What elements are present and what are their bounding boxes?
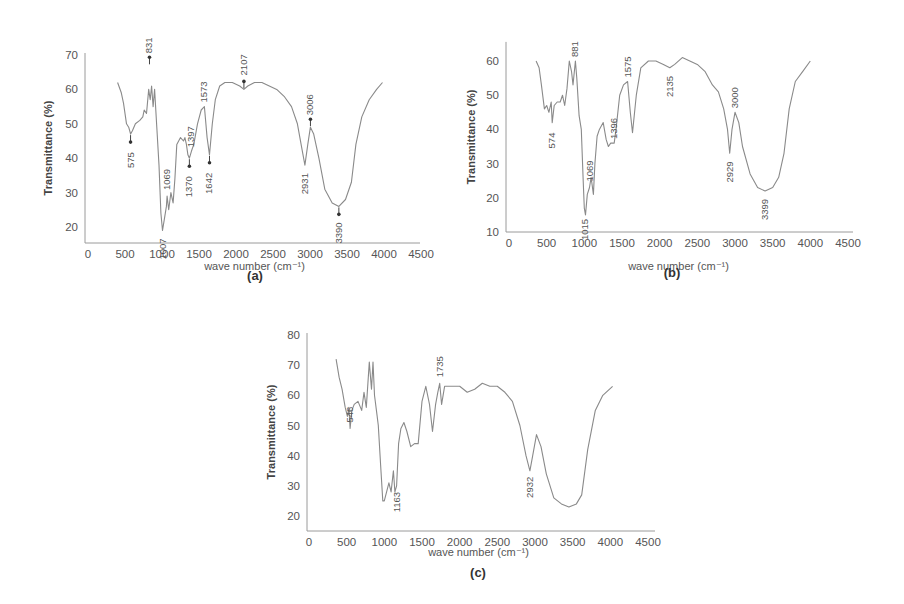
chart-panel-c: 2030405060708005001000150020002500300035… [265, 329, 661, 558]
peak-label: 1007 [157, 238, 168, 259]
x-tick-label: 3000 [722, 237, 748, 249]
x-tick-label: 4500 [835, 237, 861, 249]
ftir-figure: 2030405060700500100015002000250030003500… [0, 0, 904, 604]
chart-panel-a: 2030405060700500100015002000250030003500… [42, 37, 434, 272]
x-tick-label: 0 [85, 248, 91, 260]
x-tick-label: 4000 [598, 536, 624, 548]
peak-label: 1396 [608, 118, 619, 139]
x-tick-label: 500 [337, 536, 356, 548]
arrow-head-icon [188, 164, 192, 168]
x-tick-label: 3000 [297, 248, 323, 260]
x-tick-label: 3500 [334, 248, 360, 260]
y-tick-label: 30 [65, 187, 78, 199]
x-tick-label: 500 [537, 237, 556, 249]
chart-panel-b: 1020304050600500100015002000250030003500… [465, 41, 861, 272]
y-tick-label: 40 [486, 123, 499, 135]
peak-label: 1735 [434, 356, 445, 377]
peak-label: 1642 [204, 173, 215, 194]
x-tick-label: 500 [115, 248, 134, 260]
peak-label: 2135 [664, 76, 675, 97]
y-tick-label: 30 [287, 480, 300, 492]
y-axis-title: Transmittance (%) [465, 89, 477, 184]
y-tick-label: 20 [65, 221, 78, 233]
peak-label: 1069 [584, 160, 595, 181]
peak-label: 1015 [579, 219, 590, 240]
y-tick-label: 20 [486, 192, 499, 204]
panel-label-b: (b) [664, 265, 681, 280]
x-tick-label: 0 [306, 536, 312, 548]
peak-label: 1370 [183, 176, 194, 197]
x-tick-label: 2500 [685, 237, 711, 249]
y-tick-label: 30 [486, 158, 499, 170]
arrow-head-icon [309, 117, 313, 121]
arrow-head-icon [208, 161, 212, 165]
peak-label: 881 [569, 41, 580, 57]
peak-label: 1163 [391, 492, 402, 512]
x-tick-label: 1500 [609, 237, 635, 249]
y-tick-label: 50 [287, 420, 300, 432]
peak-label: 1397 [185, 126, 196, 147]
y-axis-title: Transmittance (%) [42, 100, 54, 195]
x-tick-label: 3500 [760, 237, 786, 249]
x-tick-label: 2500 [260, 248, 286, 260]
spectrum-curve [118, 83, 383, 231]
x-tick-label: 4000 [798, 237, 824, 249]
panel-label-a: (a) [247, 268, 263, 283]
peak-label: 3390 [333, 222, 344, 243]
peak-label: 3000 [729, 87, 740, 108]
x-tick-label: 4500 [635, 536, 661, 548]
x-tick-label: 1000 [372, 536, 398, 548]
x-tick-label: 4500 [408, 248, 434, 260]
y-tick-label: 70 [287, 359, 300, 371]
peak-label: 3006 [304, 94, 315, 115]
peak-label: 546 [344, 407, 355, 423]
y-tick-label: 50 [486, 89, 499, 101]
y-tick-label: 60 [486, 55, 499, 67]
peak-label: 831 [143, 37, 154, 53]
y-tick-label: 50 [65, 118, 78, 130]
y-tick-label: 70 [65, 49, 78, 61]
x-tick-label: 4000 [371, 248, 397, 260]
y-tick-label: 60 [287, 389, 300, 401]
peak-label: 1069 [161, 169, 172, 190]
peak-label: 575 [125, 152, 136, 168]
ftir-spectra-svg: 2030405060700500100015002000250030003500… [0, 0, 904, 604]
panel-label-c: (c) [470, 565, 486, 580]
peak-label: 1575 [622, 56, 633, 77]
x-tick-label: 3500 [560, 536, 586, 548]
peak-label: 3399 [759, 199, 770, 220]
x-tick-label: 2000 [223, 248, 249, 260]
y-tick-label: 20 [287, 510, 300, 522]
peak-label: 2107 [238, 54, 249, 75]
peak-label: 574 [546, 133, 557, 149]
peak-label: 2932 [524, 477, 535, 498]
peak-label: 1573 [198, 81, 209, 102]
x-tick-label: 0 [506, 237, 512, 249]
y-axis-title: Transmittance (%) [265, 384, 277, 479]
arrow-head-icon [148, 56, 152, 60]
arrow-head-icon [129, 140, 133, 144]
y-tick-label: 10 [486, 226, 499, 238]
y-tick-label: 60 [65, 83, 78, 95]
peak-label: 2929 [724, 161, 735, 182]
x-tick-label: 2000 [647, 237, 673, 249]
x-tick-label: 1500 [186, 248, 212, 260]
y-tick-label: 40 [65, 152, 78, 164]
y-tick-label: 80 [287, 329, 300, 341]
x-axis-title: wave number (cm⁻¹) [427, 546, 529, 558]
peak-label: 2931 [299, 173, 310, 194]
arrow-head-icon [242, 80, 246, 84]
y-tick-label: 40 [287, 450, 300, 462]
spectrum-curve [336, 359, 612, 507]
arrow-head-icon [337, 213, 341, 217]
